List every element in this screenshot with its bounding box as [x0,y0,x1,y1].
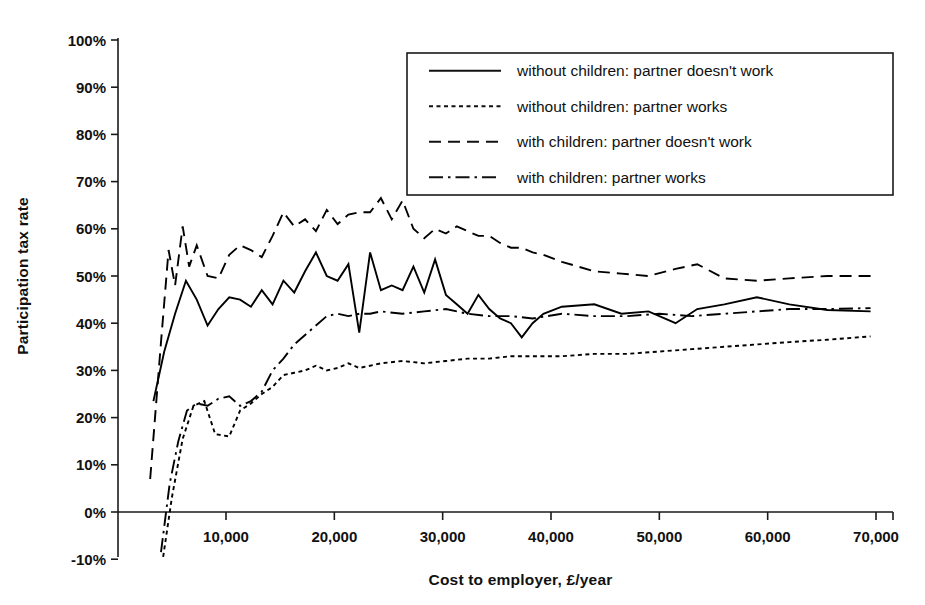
y-axis-title: Participation tax rate [14,197,31,355]
y-tick-label: 30% [76,362,106,379]
y-tick-label: -10% [71,551,106,568]
legend-label: with children: partner doesn't work [516,133,752,150]
y-tick-label: 10% [76,456,106,473]
x-tick-label: 40,000 [528,528,574,545]
x-tick-label: 50,000 [636,528,682,545]
y-tick-label: 20% [76,409,106,426]
legend-label: without children: partner works [516,98,727,115]
series-line-0 [153,252,870,401]
x-tick-label: 20,000 [311,528,357,545]
y-tick-label: 60% [76,220,106,237]
x-tick-label: 10,000 [203,528,249,545]
legend-label: without children: partner doesn't work [516,62,774,79]
series-line-3 [161,308,871,552]
y-tick-label: 70% [76,173,106,190]
y-tick-label: 40% [76,315,106,332]
x-tick-label: 60,000 [745,528,791,545]
y-tick-label: 80% [76,126,106,143]
x-axis-title: Cost to employer, £/year [429,571,613,588]
participation-tax-rate-chart: -10%0%10%20%30%40%50%60%70%80%90%100%10,… [0,0,925,605]
chart-canvas: -10%0%10%20%30%40%50%60%70%80%90%100%10,… [0,0,925,605]
y-tick-label: 90% [76,79,106,96]
series-line-1 [163,336,870,556]
y-tick-label: 0% [84,504,106,521]
y-tick-label: 50% [76,268,106,285]
y-tick-label: 100% [68,32,106,49]
x-tick-label: 30,000 [420,528,466,545]
series-line-2 [150,198,870,479]
legend-label: with children: partner works [516,169,706,186]
x-tick-label: 70,000 [853,528,899,545]
